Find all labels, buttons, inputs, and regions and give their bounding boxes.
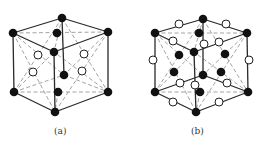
filled-atom-icon [175, 51, 184, 60]
open-atom-icon [245, 56, 253, 64]
filled-atom-icon [104, 28, 113, 37]
filled-atom-icon [244, 88, 253, 97]
dashed-bond-line [64, 75, 108, 92]
filled-atom-icon [190, 48, 199, 57]
filled-atom-icon [10, 88, 19, 97]
cube-edge-line [14, 92, 55, 112]
panel-b-cubic-lattice [149, 15, 253, 117]
cube-edge-line [13, 33, 14, 92]
filled-atom-icon [170, 68, 179, 77]
open-atom-icon [200, 40, 208, 48]
open-atom-icon [80, 50, 88, 58]
cube-edge-line [54, 52, 55, 112]
open-atom-icon [191, 81, 199, 89]
filled-atom-icon [199, 71, 208, 80]
filled-atom-icon [221, 50, 230, 59]
open-atom-icon [222, 20, 230, 28]
filled-atom-icon [199, 15, 208, 24]
open-atom-icon [78, 67, 86, 75]
open-atom-icon [169, 37, 177, 45]
open-atom-icon [175, 20, 183, 28]
filled-atom-icon [217, 68, 226, 77]
cube-edge-line [55, 92, 108, 112]
filled-atom-icon [54, 88, 63, 97]
filled-atom-icon [60, 71, 69, 80]
filled-atom-icon [58, 14, 67, 23]
filled-atom-icon [51, 108, 60, 117]
open-atom-icon [176, 79, 184, 87]
filled-atom-icon [192, 108, 201, 117]
open-atom-icon [149, 56, 157, 64]
filled-atom-icon [243, 29, 252, 38]
panel-b-label: (b) [191, 126, 204, 136]
open-atom-icon [223, 79, 231, 87]
open-atom-icon [29, 68, 37, 76]
filled-atom-icon [104, 88, 113, 97]
open-atom-icon [169, 98, 177, 106]
crystal-structure-figure [0, 0, 266, 145]
panel-a-cubic-lattice [9, 14, 113, 117]
open-atom-icon [215, 98, 223, 106]
cube-edge-line [62, 18, 108, 32]
filled-atom-icon [50, 48, 59, 57]
open-atom-icon [34, 51, 42, 59]
panel-a-label: (a) [54, 126, 66, 136]
open-atom-icon [215, 38, 223, 46]
cube-edge-line [62, 18, 64, 75]
filled-atom-icon [195, 29, 204, 38]
filled-atom-icon [196, 88, 205, 97]
filled-atom-icon [151, 88, 160, 97]
filled-atom-icon [151, 29, 160, 38]
cube-edge-line [13, 33, 54, 52]
filled-atom-icon [53, 29, 62, 38]
filled-atom-icon [9, 29, 18, 38]
